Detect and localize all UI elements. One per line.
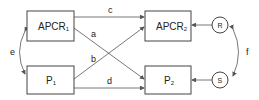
label-b: b	[91, 54, 96, 64]
path-f-covariance	[233, 29, 239, 76]
label-a: a	[91, 29, 96, 39]
node-apcr2: APCR2	[145, 11, 191, 41]
node-r: R	[212, 17, 228, 33]
label-d: d	[107, 76, 112, 86]
svg-text:R: R	[218, 22, 223, 29]
node-s: S	[212, 72, 228, 88]
path-diagram: APCR1 P1 APCR2 P2 R S c a b d e f	[0, 0, 259, 100]
svg-text:APCR2: APCR2	[156, 21, 188, 32]
node-apcr1: APCR1	[27, 11, 74, 41]
label-f: f	[246, 47, 249, 57]
node-p2: P2	[145, 66, 191, 94]
label-e: e	[10, 47, 15, 57]
svg-text:S: S	[218, 77, 223, 84]
label-c: c	[108, 5, 113, 15]
svg-text:APCR1: APCR1	[38, 21, 70, 32]
path-e-covariance	[20, 31, 26, 74]
node-p1: P1	[27, 66, 74, 94]
